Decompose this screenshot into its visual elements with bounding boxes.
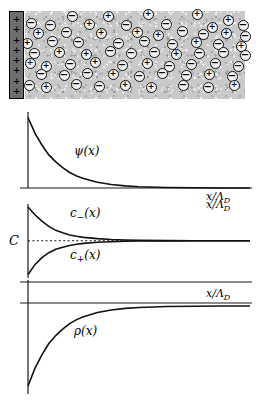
c-minus-label-base: c	[70, 206, 77, 220]
charged-wall: ++++++++	[9, 11, 24, 99]
negative-ion-icon: −	[121, 20, 132, 31]
negative-ion-icon: −	[29, 48, 40, 59]
positive-ion-icon: +	[142, 58, 153, 69]
positive-ion-icon: +	[90, 57, 101, 68]
negative-ion-icon: −	[65, 59, 76, 70]
positive-ion-icon: +	[146, 82, 157, 93]
c-plus-label: c+(x)	[70, 248, 100, 264]
psi-curve	[28, 118, 250, 188]
wall-charge-plus-icon: +	[13, 56, 21, 64]
wall-charge-plus-icon: +	[13, 66, 21, 74]
negative-ion-icon: −	[36, 69, 47, 80]
negative-ion-icon: −	[240, 50, 251, 61]
negative-ion-icon: −	[139, 36, 150, 47]
wall-charge-plus-icon: +	[13, 87, 21, 95]
rho-curve-label: ρ(x)	[74, 324, 97, 338]
negative-ion-icon: −	[47, 36, 58, 47]
negative-ion-icon: −	[126, 48, 137, 59]
positive-ion-icon: +	[41, 82, 52, 93]
negative-ion-icon: −	[82, 68, 93, 79]
positive-ion-icon: +	[108, 69, 119, 80]
positive-ion-icon: +	[223, 15, 234, 26]
positive-ion-icon: +	[81, 49, 92, 60]
electrolyte-panel: −++++−−+−−+−+−+++−−+−+−−−−−+−+−++−−−+−−−…	[0, 0, 259, 108]
positive-ion-icon: +	[229, 80, 240, 91]
rho-x-axis-label-sub: D	[224, 293, 230, 302]
wall-charge-plus-icon: +	[13, 77, 21, 85]
negative-ion-icon: −	[210, 58, 221, 69]
negative-ion-icon: −	[218, 47, 229, 58]
positive-ion-icon: +	[103, 11, 114, 22]
negative-ion-icon: −	[24, 80, 35, 91]
positive-ion-icon: +	[25, 58, 36, 69]
positive-ion-icon: +	[120, 80, 131, 91]
charge-density-plot: ρ(x) x/ΛD	[0, 286, 259, 403]
c-minus-label-tail: (x)	[84, 206, 100, 220]
positive-ion-icon: +	[96, 28, 107, 39]
positive-ion-icon: +	[171, 49, 182, 60]
c-x-axis-label: x/ΛD	[206, 198, 230, 213]
negative-ion-icon: −	[105, 46, 116, 57]
electrolyte-region: −++++−−+−−+−+−+++−−+−+−−−−−+−+−++−−−+−−−…	[25, 11, 245, 99]
rho-x-axis-label: x/ΛD	[206, 287, 230, 302]
wall-charge-plus-icon: +	[13, 36, 21, 44]
negative-ion-icon: −	[134, 71, 145, 82]
c-x-axis-label-sub: D	[224, 204, 230, 213]
charge-density-plot-svg	[0, 286, 259, 403]
potential-plot: ψ(x) x/ΛD	[0, 108, 259, 200]
c-plus-label-tail: (x)	[84, 248, 100, 262]
wall-charge-plus-icon: +	[13, 15, 21, 23]
negative-ion-icon: −	[194, 48, 205, 59]
negative-ion-icon: −	[178, 80, 189, 91]
c-plus-label-base: c	[70, 248, 77, 262]
positive-ion-icon: +	[221, 28, 232, 39]
positive-ion-icon: +	[191, 37, 202, 48]
positive-ion-icon: +	[84, 19, 95, 30]
psi-curve-label: ψ(x)	[74, 144, 100, 158]
potential-plot-svg	[0, 108, 259, 200]
negative-ion-icon: −	[117, 60, 128, 71]
wall-charge-plus-icon: +	[13, 25, 21, 33]
positive-ion-icon: +	[192, 9, 203, 20]
negative-ion-icon: −	[238, 20, 249, 31]
negative-ion-icon: −	[203, 82, 214, 93]
c-x-axis-label-text: x/Λ	[206, 198, 224, 211]
double-layer-figure: −++++−−+−−+−+−+++−−+−+−−−−−+−+−++−−−+−−−…	[0, 0, 259, 403]
negative-ion-icon: −	[186, 59, 197, 70]
rho-x-axis-label-text: x/Λ	[206, 287, 224, 300]
negative-ion-icon: −	[94, 81, 105, 92]
negative-ion-icon: −	[26, 18, 37, 29]
negative-ion-icon: −	[161, 19, 172, 30]
c-plus-curve	[28, 241, 250, 275]
negative-ion-icon: −	[167, 39, 178, 50]
negative-ion-icon: −	[61, 27, 72, 38]
wall-charge-plus-icon: +	[13, 46, 21, 54]
negative-ion-icon: −	[149, 47, 160, 58]
negative-ion-icon: −	[59, 70, 70, 81]
concentration-plot: C c−(x) c+(x) x/ΛD	[0, 200, 259, 286]
positive-ion-icon: +	[143, 9, 154, 20]
rho-curve	[28, 306, 250, 386]
negative-ion-icon: −	[45, 20, 56, 31]
bulk-concentration-label: C	[9, 233, 19, 248]
positive-ion-icon: +	[33, 28, 44, 39]
positive-ion-icon: +	[204, 69, 215, 80]
negative-ion-icon: −	[71, 79, 82, 90]
negative-ion-icon: −	[177, 26, 188, 37]
negative-ion-icon: −	[67, 11, 78, 22]
negative-ion-icon: −	[73, 37, 84, 48]
positive-ion-icon: +	[54, 47, 65, 58]
negative-ion-icon: −	[240, 31, 251, 42]
positive-ion-icon: +	[153, 30, 164, 41]
negative-ion-icon: −	[157, 68, 168, 79]
c-minus-label: c−(x)	[70, 206, 100, 222]
